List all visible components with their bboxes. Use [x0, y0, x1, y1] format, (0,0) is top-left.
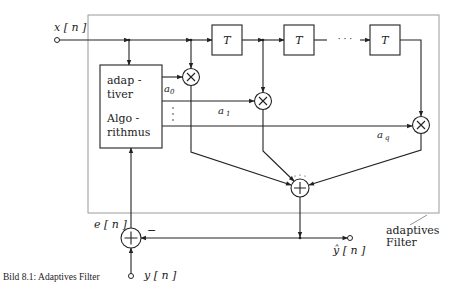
multq-to-sum — [309, 134, 421, 186]
input-terminal — [55, 38, 60, 43]
desired-label: y [ n ] — [143, 269, 177, 282]
multiplier-1 — [255, 93, 272, 110]
sum-ellipsis-dot — [294, 175, 295, 176]
coef-a0-label: a0 — [164, 83, 175, 96]
error-adder — [121, 228, 141, 248]
coef-ellipsis-dot — [172, 107, 174, 109]
mult0-to-sum — [191, 86, 291, 186]
coef-a1-label: a1 — [218, 105, 230, 118]
algorithm-label-line2: tiver — [107, 88, 134, 101]
algorithm-label-line1: adap - — [107, 74, 142, 87]
algorithm-label-line4: rithmus — [107, 126, 151, 139]
delay3-to-multq — [400, 40, 421, 116]
multiplier-0 — [183, 69, 200, 86]
delay-ellipsis: · · · — [338, 34, 352, 44]
frame-label-line2: Filter — [386, 236, 418, 249]
output-adder — [291, 179, 309, 197]
sum-ellipsis-dot — [299, 174, 300, 175]
coef-ellipsis-dot — [172, 119, 174, 121]
multiplier-q — [413, 117, 430, 134]
minus-sign: − — [147, 224, 156, 237]
error-label: e [ n ] — [94, 218, 127, 231]
sum-ellipsis-dot — [304, 175, 305, 176]
mult1-to-sum — [263, 110, 294, 182]
algorithm-label-line3: Algo - — [106, 112, 140, 125]
coef-aq-label: aq — [377, 129, 390, 142]
desired-terminal — [129, 274, 134, 279]
output-terminal — [348, 236, 353, 241]
figure-caption: Bild 8.1: Adaptives Filter — [3, 272, 100, 282]
adaptive-filter-diagram: T T · · · T adap - tiver Algo - rithmus … — [0, 0, 459, 297]
coef-ellipsis-dot — [172, 113, 174, 115]
input-label: x [ n ] — [54, 21, 87, 34]
output-label: ŷ [ n ] — [332, 244, 366, 257]
